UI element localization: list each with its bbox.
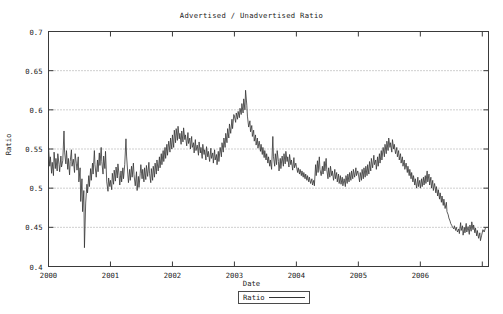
y-tick-label: 0.6 [13,106,43,115]
y-tick-label: 0.65 [13,67,43,76]
y-tick-label: 0.55 [13,145,43,154]
legend-entry-ratio: Ratio [243,294,265,301]
x-tick-label: 2000 [31,271,67,280]
y-tick-label: 0.5 [13,184,43,193]
x-axis-label: Date [0,279,503,288]
chart-title: Advertised / Unadvertised Ratio [0,11,503,20]
y-tick-label: 0.45 [13,223,43,232]
chart-figure: Advertised / Unadvertised Ratio Ratio Da… [0,0,503,314]
data-series-ratio [49,90,486,247]
gridlines [49,71,489,228]
x-tick-label: 2006 [402,271,438,280]
x-tick-label: 2004 [278,271,314,280]
x-tick-label: 2005 [340,271,376,280]
legend-line-swatch [269,297,305,298]
chart-legend[interactable]: Ratio [238,291,310,304]
plot-area [0,0,503,314]
x-tick-label: 2002 [154,271,190,280]
y-axis-label: Ratio [4,121,13,169]
x-tick-label: 2001 [92,271,128,280]
y-tick-label: 0.7 [13,28,43,37]
x-tick-label: 2003 [216,271,252,280]
